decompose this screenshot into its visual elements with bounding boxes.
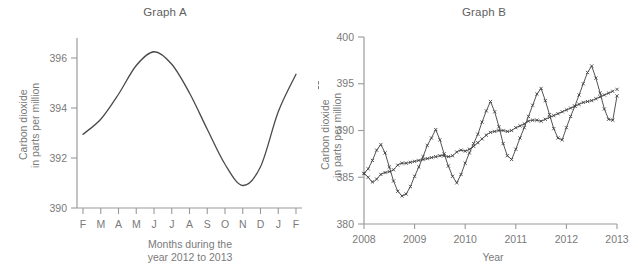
- graph-b-y-ticks: 380385390395400: [336, 31, 364, 230]
- graph-b-x-tick-label: 2013: [605, 233, 629, 245]
- graph-b-y-tick-label: 380: [336, 218, 354, 230]
- graph-b-x-tick-label: 2009: [403, 233, 427, 245]
- graph-a-y-tick-label: 390: [49, 202, 67, 214]
- graph-b-series-seasonal: [364, 66, 617, 196]
- graph-b-y-tick-label: 385: [336, 171, 354, 183]
- graph-a-svg: Carbon dioxide in parts per million 3903…: [0, 0, 318, 273]
- graph-a-x-tick-label: M: [96, 218, 105, 230]
- graph-a-x-tick-label: J: [151, 218, 156, 230]
- graph-a-ylabel-line2: in parts per million: [29, 83, 41, 168]
- graph-a-x-tick-label: J: [169, 218, 174, 230]
- graph-b-xlabel: Year: [482, 251, 504, 263]
- graph-a-xlabel-line2: year 2012 to 2013: [148, 251, 233, 263]
- graph-b-markers-trend: [318, 81, 619, 183]
- graph-b-x-tick-label: 2012: [555, 233, 579, 245]
- graph-a-xlabel-line1: Months during the: [148, 238, 232, 250]
- graph-a-y-tick-label: 396: [49, 52, 67, 64]
- graph-a-x-tick-label: F: [293, 218, 299, 230]
- graph-a-y-tick-label: 392: [49, 152, 67, 164]
- graph-a-x-tick-label: F: [80, 218, 86, 230]
- graph-b-x-ticks: 200820092010201120122013: [352, 224, 629, 245]
- graph-b-markers-seasonal: [362, 64, 618, 197]
- graph-a-data-curve: [83, 52, 296, 186]
- graph-b-ylabel-line1: Carbon dioxide: [319, 99, 331, 170]
- graph-b-svg: Carbon dioxide in parts per million 3803…: [318, 0, 638, 273]
- graph-a-x-tick-label: A: [115, 218, 122, 230]
- graph-b-x-tick-label: 2008: [352, 233, 376, 245]
- graph-a-x-ticks: FMAMJJASONDJF: [80, 208, 299, 230]
- graph-a-panel: Graph A Carbon dioxide in parts per mill…: [0, 0, 318, 273]
- graph-b-x-tick-label: 2010: [454, 233, 478, 245]
- graph-a-x-tick-label: M: [132, 218, 141, 230]
- graph-b-y-tick-label: 395: [336, 77, 354, 89]
- graph-a-ylabel-line1: Carbon dioxide: [17, 89, 29, 160]
- graph-a-y-tick-label: 394: [49, 102, 67, 114]
- graph-a-x-tick-label: A: [186, 218, 193, 230]
- graph-b-y-tick-label: 400: [336, 31, 354, 43]
- graph-a-x-tick-label: J: [276, 218, 281, 230]
- graph-b-y-tick-label: 390: [336, 124, 354, 136]
- graph-a-x-tick-label: S: [204, 218, 211, 230]
- graph-b-panel: Graph B Carbon dioxide in parts per mill…: [318, 0, 638, 273]
- figure-container: Graph A Carbon dioxide in parts per mill…: [0, 0, 638, 273]
- graph-a-x-tick-label: N: [239, 218, 247, 230]
- graph-b-x-tick-label: 2011: [505, 233, 528, 245]
- graph-a-y-ticks: 390392394396: [49, 52, 77, 214]
- graph-a-x-tick-label: O: [221, 218, 229, 230]
- graph-a-x-tick-label: D: [257, 218, 265, 230]
